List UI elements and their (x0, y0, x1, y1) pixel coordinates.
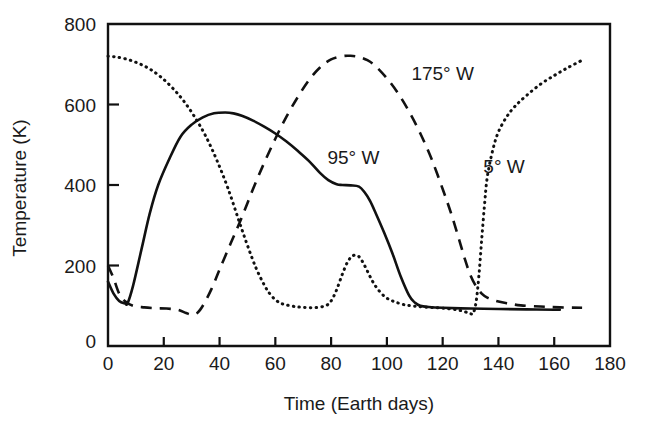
x-tick-label: 180 (594, 353, 626, 374)
data-curves (108, 56, 582, 315)
x-tick-label: 160 (538, 353, 570, 374)
series-curve-solid (108, 113, 560, 310)
y-tick-label: 800 (64, 14, 96, 35)
x-tick-label: 0 (103, 353, 114, 374)
y-axis-ticks (108, 105, 119, 266)
x-tick-label: 40 (209, 353, 230, 374)
y-axis-title: Temperature (K) (9, 119, 30, 256)
series-label-1: 95° W (327, 147, 379, 168)
y-tick-label: 400 (64, 175, 96, 196)
x-axis-title: Time (Earth days) (284, 393, 434, 414)
x-axis-ticks (164, 337, 554, 346)
x-tick-label: 60 (265, 353, 286, 374)
x-tick-label: 80 (321, 353, 342, 374)
y-axis-tick-labels: 0200400600800 (64, 14, 96, 352)
series-label-3: 5° W (483, 156, 524, 177)
temperature-vs-time-chart: 020406080100120140160180 0200400600800 9… (0, 0, 650, 427)
series-annotations: 95° W175° W5° W (327, 63, 524, 177)
y-tick-label: 600 (64, 95, 96, 116)
x-tick-label: 140 (483, 353, 515, 374)
x-tick-label: 100 (371, 353, 403, 374)
x-axis-tick-labels: 020406080100120140160180 (103, 353, 626, 374)
series-label-2: 175° W (411, 63, 474, 84)
figure-container: 020406080100120140160180 0200400600800 9… (0, 0, 650, 427)
y-tick-label: 200 (64, 256, 96, 277)
x-tick-label: 120 (427, 353, 459, 374)
plot-box (108, 24, 610, 346)
y-tick-label: 0 (85, 331, 96, 352)
plot-frame (108, 24, 610, 346)
x-tick-label: 20 (153, 353, 174, 374)
